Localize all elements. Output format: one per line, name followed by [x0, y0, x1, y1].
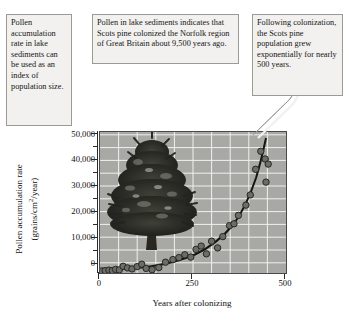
callout-right-text: Following colonization, the Scots pine p…	[257, 18, 338, 71]
data-point	[198, 243, 204, 249]
callout-right-exponential-growth: Following colonization, the Scots pine p…	[252, 14, 343, 96]
y-axis-tick-mark-35000	[93, 172, 97, 173]
y-axis-tick-mark-5000	[93, 250, 97, 251]
data-point	[258, 148, 264, 154]
plot-svg	[100, 132, 286, 273]
y-axis-tick-mark-25000	[93, 198, 97, 199]
data-point	[182, 252, 188, 258]
data-point	[263, 179, 269, 185]
y-axis-units-pre: (grains/cm	[29, 202, 39, 241]
y-tick-20000: 20,000	[43, 206, 95, 216]
y-axis-tick-mark-15000	[93, 224, 97, 225]
data-point	[170, 256, 176, 262]
data-point	[247, 192, 253, 198]
data-point	[188, 254, 194, 260]
callout-center-colonization-date: Pollen in lake sediments indicates that …	[92, 14, 239, 64]
callout-center-text: Pollen in lake sediments indicates that …	[97, 18, 234, 50]
data-point	[149, 267, 155, 273]
plot-area	[99, 131, 287, 274]
data-point	[143, 265, 149, 271]
x-tick-0: 0	[79, 278, 119, 288]
x-axis-title: Years after colonizing	[99, 298, 285, 308]
data-point	[265, 161, 271, 167]
callout-left-text: Pollen accumulation rate in lake sedimen…	[11, 18, 67, 92]
data-point	[243, 202, 249, 208]
y-axis-tick-mark-50000	[91, 133, 97, 134]
y-axis-tick-mark-30000	[91, 185, 97, 186]
y-axis-title-line2: (grains/cm2/year)	[25, 129, 40, 289]
y-axis-title-line1: Pollen accumulation rate	[14, 129, 25, 289]
data-point	[235, 212, 241, 218]
data-point	[176, 254, 182, 260]
y-axis-title: Pollen accumulation rate (grains/cm2/yea…	[14, 129, 40, 289]
data-point	[162, 259, 168, 265]
data-point	[208, 238, 214, 244]
data-point	[252, 166, 258, 172]
data-point	[156, 264, 162, 270]
data-point	[214, 245, 220, 251]
y-axis-units-post: /year)	[29, 178, 39, 199]
y-axis-tick-mark-20000	[91, 211, 97, 212]
y-tick-40000: 40,000	[43, 154, 95, 164]
x-tick-250: 250	[172, 278, 212, 288]
y-axis-units-exponent: 2	[27, 199, 34, 202]
callout-left-population-index: Pollen accumulation rate in lake sedimen…	[6, 14, 72, 126]
y-axis-tick-mark-45000	[93, 146, 97, 147]
y-axis-tick-mark-40000	[91, 159, 97, 160]
pollen-accumulation-figure: Pollen accumulation rate in lake sedimen…	[0, 0, 349, 326]
y-axis-tick-mark-10000	[91, 237, 97, 238]
data-point	[231, 221, 237, 227]
data-point	[203, 251, 209, 257]
data-point	[220, 233, 226, 239]
x-tick-500: 500	[265, 278, 305, 288]
y-tick-0: 0	[43, 258, 95, 268]
y-tick-30000: 30,000	[43, 180, 95, 190]
y-tick-10000: 10,000	[43, 232, 95, 242]
y-axis-tick-mark-0	[91, 263, 97, 264]
y-tick-50000: 50,000	[43, 129, 95, 139]
